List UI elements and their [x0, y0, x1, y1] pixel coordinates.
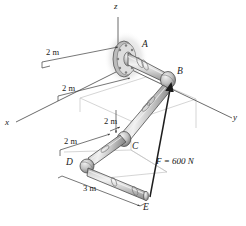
- dimension-label-cd: 2 m: [64, 137, 77, 146]
- axis-label-y: y: [233, 113, 237, 122]
- dimension-label-depth: 2 m: [62, 84, 75, 93]
- dimension-label-de: 3 m: [83, 184, 96, 193]
- axis-label-x: x: [5, 118, 9, 127]
- point-label-d: D: [66, 158, 73, 168]
- pipe-segment-de: [87, 168, 148, 201]
- dimension-label-ab-upper: 2 m: [46, 48, 59, 57]
- dimension-label-vertical: 2 m: [104, 117, 117, 126]
- force-label: F = 600 N: [156, 157, 194, 166]
- axis-label-z: z: [114, 2, 118, 11]
- figure-canvas: [0, 0, 246, 226]
- pipe-assembly-figure: z x y A B C D E 2 m 2 m 2 m 2 m 3 m F = …: [0, 0, 246, 226]
- point-label-c: C: [132, 142, 138, 152]
- point-label-a: A: [142, 40, 148, 50]
- pipe-segment-bc: [121, 85, 171, 140]
- point-label-e: E: [143, 203, 149, 213]
- point-label-b: B: [177, 67, 183, 77]
